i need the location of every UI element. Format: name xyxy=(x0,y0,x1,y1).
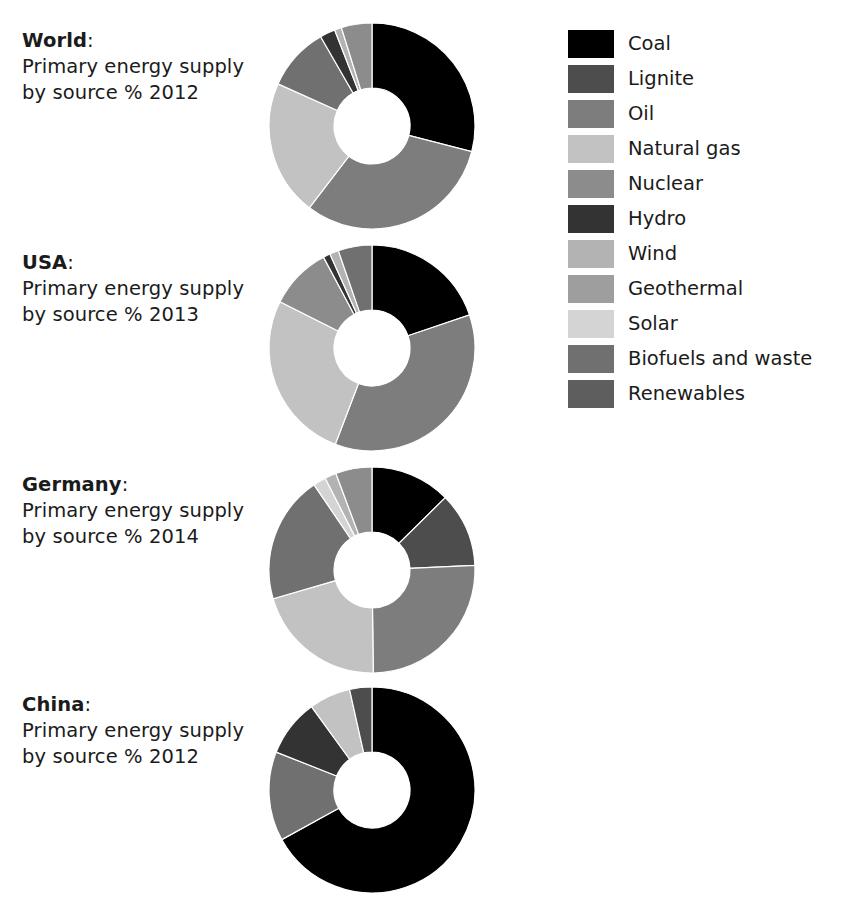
legend-swatch-icon xyxy=(568,135,614,163)
caption-colon: : xyxy=(122,473,129,496)
caption-country-name: USA xyxy=(22,251,67,274)
legend-row[interactable]: Nuclear xyxy=(568,166,853,201)
caption-country-line: USA: xyxy=(22,250,252,276)
legend-label: Lignite xyxy=(628,68,694,90)
caption-country-line: China: xyxy=(22,692,252,718)
legend-row[interactable]: Natural gas xyxy=(568,131,853,166)
legend-swatch-icon xyxy=(568,380,614,408)
donut-center-hole xyxy=(334,88,410,164)
legend-swatch-icon xyxy=(568,100,614,128)
legend-swatch-icon xyxy=(568,170,614,198)
legend-row[interactable]: Biofuels and waste xyxy=(568,341,853,376)
donut-chart-china xyxy=(267,685,477,895)
chart-caption-china: China:Primary energy supplyby source % 2… xyxy=(22,692,252,770)
legend-row[interactable]: Oil xyxy=(568,96,853,131)
legend-swatch-icon xyxy=(568,240,614,268)
legend-swatch-icon xyxy=(568,65,614,93)
donut-center-hole xyxy=(334,532,410,608)
energy-supply-figure: World:Primary energy supplyby source % 2… xyxy=(0,0,853,909)
chart-caption-usa: USA:Primary energy supplyby source % 201… xyxy=(22,250,252,328)
caption-line-1: Primary energy supply xyxy=(22,498,252,524)
caption-line-2: by source % 2014 xyxy=(22,524,252,550)
legend-label: Coal xyxy=(628,33,671,55)
legend-label: Biofuels and waste xyxy=(628,348,812,370)
caption-country-name: China xyxy=(22,693,84,716)
caption-line-2: by source % 2012 xyxy=(22,80,252,106)
legend-row[interactable]: Geothermal xyxy=(568,271,853,306)
donut-center-hole xyxy=(334,752,410,828)
legend-row[interactable]: Coal xyxy=(568,26,853,61)
legend-label: Solar xyxy=(628,313,678,335)
legend-swatch-icon xyxy=(568,275,614,303)
caption-country-name: Germany xyxy=(22,473,122,496)
donut-svg-usa xyxy=(267,243,477,453)
caption-line-1: Primary energy supply xyxy=(22,54,252,80)
legend-label: Hydro xyxy=(628,208,686,230)
caption-line-2: by source % 2013 xyxy=(22,302,252,328)
legend-swatch-icon xyxy=(568,345,614,373)
donut-svg-germany xyxy=(267,465,477,675)
caption-line-1: Primary energy supply xyxy=(22,718,252,744)
donut-center-hole xyxy=(334,310,410,386)
legend-label: Oil xyxy=(628,103,654,125)
donut-chart-germany xyxy=(267,465,477,675)
legend-swatch-icon xyxy=(568,205,614,233)
chart-legend: CoalLigniteOilNatural gasNuclearHydroWin… xyxy=(568,26,853,411)
donut-chart-world xyxy=(267,21,477,231)
donut-svg-china xyxy=(267,685,477,895)
caption-colon: : xyxy=(84,693,91,716)
caption-country-name: World xyxy=(22,29,87,52)
legend-row[interactable]: Hydro xyxy=(568,201,853,236)
caption-colon: : xyxy=(67,251,74,274)
legend-row[interactable]: Solar xyxy=(568,306,853,341)
caption-country-line: World: xyxy=(22,28,252,54)
caption-line-1: Primary energy supply xyxy=(22,276,252,302)
caption-country-line: Germany: xyxy=(22,472,252,498)
chart-caption-world: World:Primary energy supplyby source % 2… xyxy=(22,28,252,106)
donut-svg-world xyxy=(267,21,477,231)
legend-swatch-icon xyxy=(568,310,614,338)
legend-label: Renewables xyxy=(628,383,745,405)
legend-label: Natural gas xyxy=(628,138,741,160)
legend-row[interactable]: Lignite xyxy=(568,61,853,96)
caption-line-2: by source % 2012 xyxy=(22,744,252,770)
legend-label: Wind xyxy=(628,243,677,265)
chart-caption-germany: Germany:Primary energy supplyby source %… xyxy=(22,472,252,550)
legend-label: Geothermal xyxy=(628,278,743,300)
legend-row[interactable]: Wind xyxy=(568,236,853,271)
legend-label: Nuclear xyxy=(628,173,703,195)
legend-row[interactable]: Renewables xyxy=(568,376,853,411)
caption-colon: : xyxy=(87,29,94,52)
donut-chart-usa xyxy=(267,243,477,453)
legend-swatch-icon xyxy=(568,30,614,58)
